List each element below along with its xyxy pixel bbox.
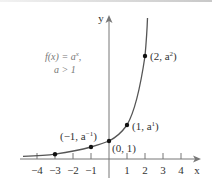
function-label: f(x) = ax, bbox=[45, 50, 81, 63]
x-axis-label: x bbox=[194, 164, 200, 176]
tick-label: 4 bbox=[178, 164, 184, 176]
data-point bbox=[53, 152, 57, 156]
point-label-zero: (0, 1) bbox=[112, 142, 136, 155]
tick-label: −3 bbox=[49, 164, 61, 176]
point-label-one: (1, a1) bbox=[132, 120, 159, 133]
x-tick-labels: −4 −3 −2 −1 1 2 3 4 bbox=[31, 164, 184, 176]
condition-label: a > 1 bbox=[54, 64, 76, 75]
tick-label: 2 bbox=[142, 164, 148, 176]
x-axis bbox=[20, 156, 201, 163]
tick-label: 1 bbox=[124, 164, 130, 176]
exponential-chart: −4 −3 −2 −1 1 2 3 4 x y (−1, a−1) (0, 1)… bbox=[0, 0, 212, 185]
tick-label: −1 bbox=[85, 164, 97, 176]
tick-label: −2 bbox=[67, 164, 79, 176]
point-label-two: (2, a2) bbox=[150, 50, 177, 63]
data-point bbox=[107, 139, 111, 143]
data-point bbox=[125, 123, 129, 127]
data-point bbox=[143, 54, 147, 58]
y-axis-label: y bbox=[98, 12, 104, 24]
tick-label: 3 bbox=[160, 164, 166, 176]
tick-label: −4 bbox=[31, 164, 43, 176]
data-point bbox=[89, 145, 93, 149]
point-label-neg1: (−1, a−1) bbox=[60, 130, 97, 143]
